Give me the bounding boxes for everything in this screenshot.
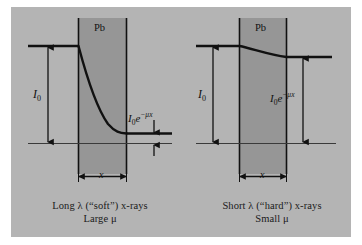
incident-intensity-label-right: I0 (198, 87, 206, 103)
slab-left (78, 18, 127, 174)
caption-line1-left: Long λ (“soft”) x-rays (0, 199, 200, 212)
attenuated-exponent-right: −μx (282, 90, 294, 99)
attenuated-intensity-label-right: I0e−μx (270, 90, 294, 107)
incident-intensity-subscript-right: 0 (202, 94, 206, 103)
caption-line1-right: Short λ (“hard”) x-rays (182, 199, 362, 212)
caption-line2-right: Small μ (182, 212, 362, 225)
thickness-label-left: x (99, 169, 103, 180)
attenuated-exponent-left: −μx (140, 110, 152, 119)
material-label-left: Pb (94, 22, 105, 33)
incident-intensity-label-left: I0 (33, 87, 41, 103)
material-label-right: Pb (255, 22, 266, 33)
xray-attenuation-figure: Pb I0 I0e−μx x Long λ (“soft”) x-rays La… (0, 0, 362, 245)
thickness-label-right: x (260, 169, 264, 180)
incident-intensity-subscript-left: 0 (37, 94, 41, 103)
attenuated-intensity-label-left: I0e−μx (128, 110, 152, 127)
caption-line2-left: Large μ (0, 212, 200, 225)
